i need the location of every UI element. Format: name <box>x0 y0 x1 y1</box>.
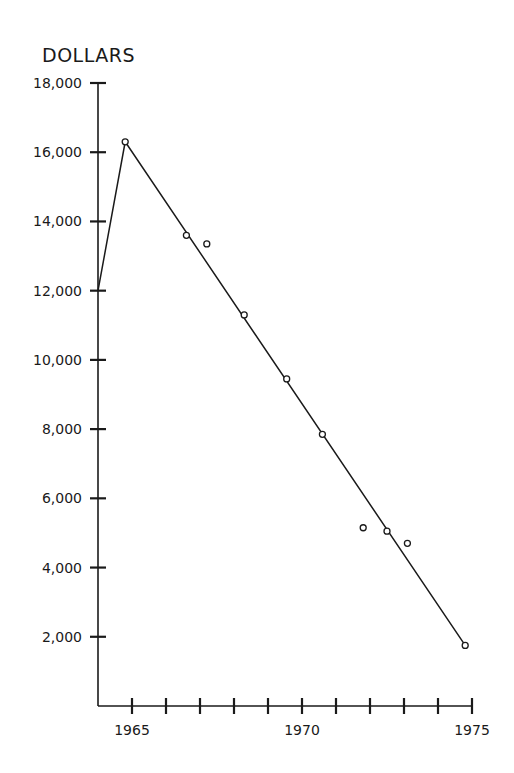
y-tick-label: 4,000 <box>42 560 82 576</box>
x-axis-ticks: 196519701975 <box>114 698 490 738</box>
x-tick-label: 1970 <box>284 722 320 738</box>
y-tick-label: 18,000 <box>33 75 82 91</box>
axes <box>98 83 472 706</box>
data-point-marker <box>241 312 247 318</box>
data-point-marker <box>204 241 210 247</box>
x-tick-label: 1975 <box>454 722 490 738</box>
y-tick-label: 14,000 <box>33 213 82 229</box>
data-point-marker <box>404 540 410 546</box>
y-axis-ticks: 2,0004,0006,0008,00010,00012,00014,00016… <box>33 75 106 645</box>
data-point-marker <box>284 376 290 382</box>
x-tick-label: 1965 <box>114 722 150 738</box>
trend-line <box>98 142 465 646</box>
data-point-marker <box>462 642 468 648</box>
y-tick-label: 10,000 <box>33 352 82 368</box>
trend-lines <box>98 142 465 646</box>
y-tick-label: 2,000 <box>42 629 82 645</box>
y-tick-label: 6,000 <box>42 490 82 506</box>
y-tick-label: 16,000 <box>33 144 82 160</box>
line-chart: 2,0004,0006,0008,00010,00012,00014,00016… <box>0 0 514 773</box>
data-point-marker <box>360 525 366 531</box>
data-point-marker <box>319 431 325 437</box>
data-point-marker <box>183 232 189 238</box>
data-point-marker <box>122 139 128 145</box>
data-point-marker <box>384 528 390 534</box>
y-tick-label: 12,000 <box>33 283 82 299</box>
y-tick-label: 8,000 <box>42 421 82 437</box>
